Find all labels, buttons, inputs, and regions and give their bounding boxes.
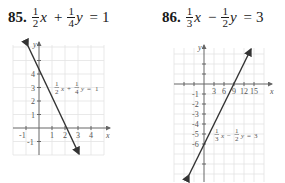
svg-text:9: 9 <box>232 87 236 96</box>
svg-text:y: y <box>197 43 202 52</box>
svg-text:-1: -1 <box>27 138 34 147</box>
graph-85: -1 1 2 3 4 4 3 2 1 -1 x y 12 x+ 14 y=1 <box>13 40 110 155</box>
svg-text:1: 1 <box>75 80 79 88</box>
svg-text:y: y <box>80 85 85 93</box>
svg-text:1: 1 <box>95 85 99 93</box>
graph-86: 3 6 9 12 15 -1 -2 -3 -4 -5 -6 x y 13 x− … <box>174 43 274 182</box>
svg-text:3: 3 <box>254 132 258 140</box>
graphs-canvas: -1 1 2 3 4 4 3 2 1 -1 x y 12 x+ 14 y=1 <box>0 0 285 183</box>
svg-text:4: 4 <box>75 88 79 96</box>
svg-text:15: 15 <box>250 87 258 96</box>
svg-text:3: 3 <box>31 84 35 93</box>
svg-text:-6: -6 <box>192 140 199 149</box>
svg-text:2: 2 <box>235 135 239 143</box>
svg-text:-3: -3 <box>192 110 199 119</box>
svg-text:3: 3 <box>212 87 216 96</box>
svg-text:-1: -1 <box>192 90 199 99</box>
svg-text:-2: -2 <box>192 100 199 109</box>
svg-text:+: + <box>67 85 71 93</box>
svg-text:4: 4 <box>31 70 35 79</box>
svg-text:x: x <box>269 87 274 96</box>
svg-text:2: 2 <box>31 97 35 106</box>
svg-text:1: 1 <box>31 111 35 120</box>
svg-text:-1: -1 <box>19 131 26 140</box>
svg-text:x: x <box>105 131 110 140</box>
svg-text:1: 1 <box>235 127 239 135</box>
svg-text:−: − <box>227 132 231 140</box>
svg-text:1: 1 <box>215 127 219 135</box>
svg-text:x: x <box>60 85 65 93</box>
svg-text:-4: -4 <box>192 120 199 129</box>
line-label: 13 x− 12 y=3 <box>215 127 259 143</box>
svg-text:3: 3 <box>215 135 219 143</box>
svg-text:6: 6 <box>222 87 226 96</box>
svg-text:-5: -5 <box>192 130 199 139</box>
svg-text:1: 1 <box>50 131 54 140</box>
svg-text:3: 3 <box>76 131 80 140</box>
svg-text:2: 2 <box>63 131 67 140</box>
svg-text:2: 2 <box>55 88 59 96</box>
svg-text:y: y <box>32 40 37 49</box>
svg-text:=: = <box>247 132 251 140</box>
svg-text:12: 12 <box>240 87 248 96</box>
svg-text:1: 1 <box>55 80 59 88</box>
svg-text:=: = <box>87 85 91 93</box>
line-label: 12 x+ 14 y=1 <box>55 80 100 96</box>
svg-text:4: 4 <box>89 131 93 140</box>
